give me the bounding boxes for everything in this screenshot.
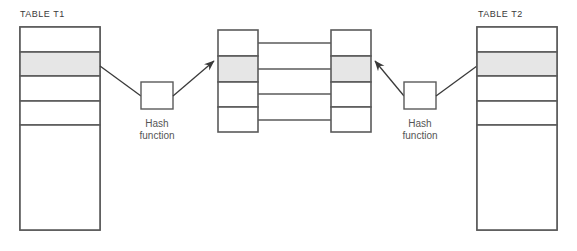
- right-bucket-cell-4: [331, 107, 371, 132]
- left-table-row-5: [20, 125, 100, 230]
- left-bucket-column: [218, 30, 258, 132]
- left-bucket-cell-4: [218, 107, 258, 132]
- arrow-left-hash-to-buckets: [173, 61, 214, 96]
- right-table-row-4: [477, 101, 557, 125]
- right-table-row-1: [477, 27, 557, 52]
- right-table-row-2-shaded: [477, 52, 557, 76]
- right-bucket-cell-2-shaded: [331, 56, 371, 82]
- right-hash-label-line2: function: [402, 130, 437, 141]
- right-bucket-column: [331, 30, 371, 132]
- left-hash-box: [141, 82, 173, 109]
- right-bucket-cell-1: [331, 30, 371, 56]
- arrow-right-hash-to-buckets: [375, 61, 404, 96]
- leader-t1-to-left-hash: [100, 66, 141, 96]
- leader-right-hash-to-t2: [436, 66, 477, 96]
- right-table-row-3: [477, 76, 557, 101]
- bucket-connectors: [258, 43, 331, 120]
- left-bucket-cell-3: [218, 82, 258, 107]
- left-table-row-2-shaded: [20, 52, 100, 76]
- right-hash-label-line1: Hash: [408, 118, 431, 129]
- left-hash-label-line1: Hash: [145, 118, 168, 129]
- right-bucket-cell-3: [331, 82, 371, 107]
- hash-join-diagram: TABLE T1 Hash function: [0, 0, 577, 251]
- diagram-canvas: TABLE T1 Hash function: [0, 0, 577, 251]
- left-table-row-4: [20, 101, 100, 125]
- left-table-label: TABLE T1: [20, 9, 65, 19]
- right-table: [477, 27, 557, 230]
- right-table-row-5: [477, 125, 557, 230]
- left-table-row-1: [20, 27, 100, 52]
- left-bucket-cell-2-shaded: [218, 56, 258, 82]
- right-hash-box: [404, 82, 436, 109]
- left-table-row-3: [20, 76, 100, 101]
- left-table: [20, 27, 100, 230]
- right-table-label: TABLE T2: [478, 9, 523, 19]
- left-hash-label-line2: function: [139, 130, 174, 141]
- left-bucket-cell-1: [218, 30, 258, 56]
